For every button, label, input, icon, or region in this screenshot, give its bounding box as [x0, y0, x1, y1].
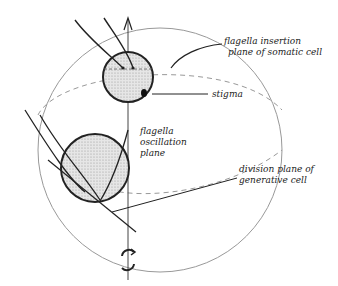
label-stigma: stigma	[212, 89, 243, 100]
label-line: flagella	[140, 126, 187, 137]
label-line: plane	[140, 148, 187, 159]
label-line: oscillation	[140, 137, 187, 148]
leader-insertion	[171, 44, 222, 68]
label-line: division plane of	[239, 164, 314, 175]
label-division-plane: division plane of generative cell	[239, 164, 314, 186]
label-flagella-insertion: flagella insertion plane of somatic cell	[224, 36, 322, 58]
stigma	[141, 89, 147, 97]
leader-division	[112, 178, 237, 212]
label-line: generative cell	[239, 175, 314, 186]
label-line: flagella insertion	[224, 36, 322, 47]
equator-dashed	[38, 75, 282, 115]
label-flagella-oscillation: flagella oscillation plane	[140, 126, 187, 159]
label-line: plane of somatic cell	[224, 47, 322, 58]
